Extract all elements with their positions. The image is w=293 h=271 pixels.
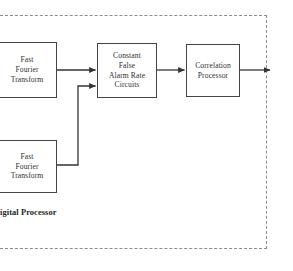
node-fast-fourier-transform-bottom: Fast Fourier Transform [0,140,57,193]
node-constant-false-alarm-rate-circuits: Constant False Alarm Rate Circuits [97,43,157,98]
node-label: Fast Fourier Transform [9,152,46,181]
node-correlation-processor: Correlation Processor [186,44,240,97]
node-label: Constant False Alarm Rate Circuits [107,51,147,90]
node-label: Fast Fourier Transform [9,55,46,84]
node-fast-fourier-transform-top: Fast Fourier Transform [0,42,57,98]
block-diagram: Fast Fourier Transform Constant False Al… [0,0,293,271]
node-label: Correlation Processor [193,61,233,80]
region-caption: igital Processor [0,208,57,217]
